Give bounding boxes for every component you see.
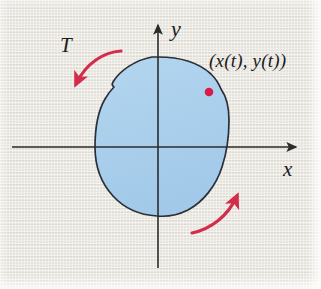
region-label-T: T: [60, 33, 72, 58]
parametric-point-marker: [205, 88, 214, 97]
x-axis-label: x: [283, 157, 292, 182]
y-axis-label: y: [171, 16, 181, 42]
figure-canvas: y x T (x(t), y(t)): [0, 0, 321, 289]
diagram-svg: [0, 0, 321, 289]
region-T-shape: [95, 57, 229, 216]
parametric-point-label: (x(t), y(t)): [209, 50, 286, 72]
